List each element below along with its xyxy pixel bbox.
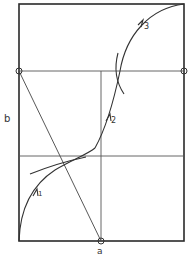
curve-segment-3 [120, 4, 184, 71]
curve-segment-2 [95, 71, 120, 148]
label-step-2: 2 [111, 116, 116, 125]
label-step-1: 1 [38, 190, 42, 198]
label-step-3: 3 [144, 22, 149, 31]
label-a: a [97, 246, 103, 256]
geometric-construction-diagram: b a 1 2 3 [0, 0, 190, 258]
tangent-arc-lower [30, 157, 86, 174]
curve-segment-1 [19, 148, 95, 241]
label-b: b [4, 113, 10, 124]
